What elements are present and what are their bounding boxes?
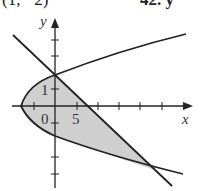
x-axis-arrow-icon [183, 102, 193, 110]
x-axis-label: x [181, 111, 189, 127]
y-axis-label: y [38, 13, 47, 29]
origin-label: 0 [41, 111, 49, 127]
region-plot: y x 1 0 5 [0, 0, 201, 191]
y-axis-arrow-icon [51, 18, 59, 28]
y-tick-label-1: 1 [41, 82, 49, 98]
x-tick-label-5: 5 [72, 111, 80, 127]
